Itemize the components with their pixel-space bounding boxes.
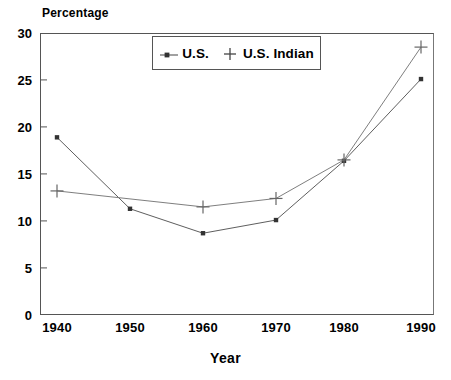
dot-line-marker-icon bbox=[159, 47, 179, 59]
series-line-u-s bbox=[57, 79, 421, 233]
data-point-dot bbox=[201, 231, 205, 235]
x-axis-title: Year bbox=[0, 350, 451, 366]
legend-entry-us-indian: U.S. Indian bbox=[220, 46, 314, 61]
series-line-u-s-indian bbox=[57, 47, 421, 207]
data-point-dot bbox=[128, 207, 132, 211]
data-point-plus bbox=[415, 41, 428, 54]
data-point-plus bbox=[197, 200, 210, 213]
legend-label-us: U.S. bbox=[182, 46, 209, 61]
data-point-plus bbox=[270, 192, 283, 205]
data-point-dot bbox=[55, 135, 59, 139]
data-point-dot bbox=[419, 77, 423, 81]
legend-label-us-indian: U.S. Indian bbox=[243, 46, 314, 61]
chart-root: Percentage 051015202530 1940195019601970… bbox=[0, 0, 451, 380]
plus-marker-icon bbox=[220, 47, 240, 59]
legend-entry-us: U.S. bbox=[159, 46, 209, 61]
legend: U.S. U.S. Indian bbox=[152, 36, 321, 70]
data-point-dot bbox=[274, 218, 278, 222]
data-point-plus bbox=[51, 184, 64, 197]
